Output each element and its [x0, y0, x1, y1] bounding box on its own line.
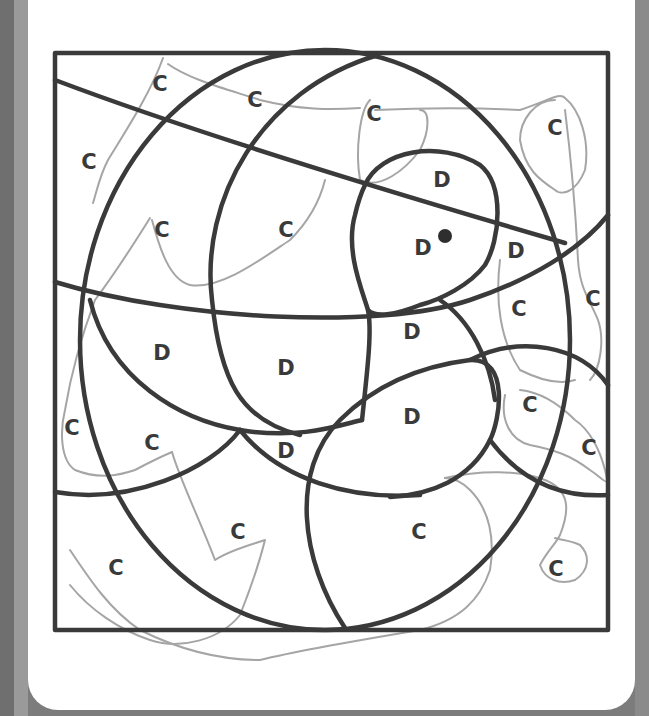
picture-outlines: [55, 50, 608, 630]
region-label: D: [277, 356, 294, 380]
duck-head-outline: [352, 151, 498, 314]
region-label: C: [581, 436, 596, 460]
region-label: D: [277, 439, 294, 463]
region-label: C: [547, 116, 562, 140]
region-label: D: [433, 168, 450, 192]
eye-dot: [438, 229, 452, 243]
color-by-letter-picture: C C C C C D C C D D C C D D D C D C C D …: [0, 0, 649, 716]
region-label: D: [403, 405, 420, 429]
region-label: C: [108, 556, 123, 580]
region-label: C: [154, 218, 169, 242]
region-label: C: [511, 297, 526, 321]
region-label: C: [144, 431, 159, 455]
wing-bottom-arc: [240, 430, 420, 496]
region-label: C: [81, 150, 96, 174]
duck-neck-line: [362, 310, 370, 420]
region-label: C: [230, 520, 245, 544]
picture-border: [55, 53, 608, 630]
region-label: C: [411, 520, 426, 544]
region-label: C: [64, 416, 79, 440]
region-label: C: [548, 557, 563, 581]
body-oval-left: [307, 360, 499, 628]
region-label: C: [366, 102, 381, 126]
region-label: D: [507, 239, 524, 263]
outer-egg-outline: [80, 50, 570, 630]
region-label: D: [414, 236, 431, 260]
region-label: D: [403, 320, 420, 344]
region-label: C: [278, 218, 293, 242]
duck-chest-line: [440, 300, 495, 400]
region-label: C: [247, 88, 262, 112]
region-label: C: [522, 393, 537, 417]
region-label: C: [585, 287, 600, 311]
letter-labels: C C C C C D C C D D C C D D D C D C C D …: [64, 72, 600, 581]
region-label: C: [152, 72, 167, 96]
region-label: D: [153, 341, 170, 365]
